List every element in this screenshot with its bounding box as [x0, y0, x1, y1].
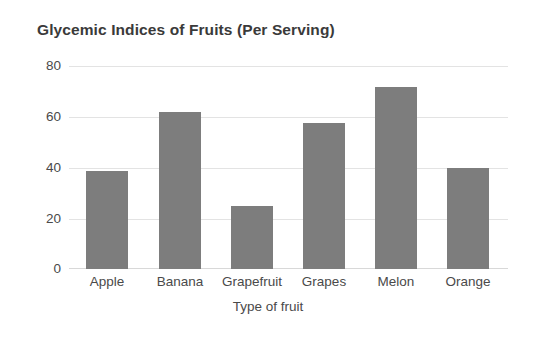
y-tick-label-80: 80: [21, 59, 61, 73]
x-tick-label-orange: Orange: [418, 275, 518, 290]
x-axis-tick-labels: Apple Banana Grapefruit Grapes Melon Ora…: [69, 275, 508, 295]
x-axis-title-text: Type of fruit: [233, 299, 304, 314]
bar-melon: [375, 87, 417, 269]
bar-grapes: [303, 123, 345, 269]
gridline-80: [69, 66, 508, 67]
y-tick-label-20: 20: [21, 212, 61, 226]
bar-grapefruit: [231, 206, 273, 269]
gridline-0: [69, 268, 508, 269]
y-tick-label-60: 60: [21, 110, 61, 124]
y-axis-tick-labels: 80 60 40 20 0: [16, 0, 61, 341]
bar-orange: [447, 168, 489, 269]
bar-chart: Glycemic Indices of Fruits (Per Serving)…: [0, 0, 538, 341]
x-axis-title: Type of fruit: [0, 299, 538, 314]
gridline-20: [69, 219, 508, 220]
chart-title: Glycemic Indices of Fruits (Per Serving): [37, 21, 335, 39]
bar-apple: [86, 171, 128, 269]
y-tick-label-0: 0: [21, 262, 61, 276]
bar-banana: [159, 112, 201, 269]
gridline-60: [69, 117, 508, 118]
plot-area: [69, 66, 508, 269]
y-tick-label-40: 40: [21, 161, 61, 175]
gridline-40: [69, 168, 508, 169]
